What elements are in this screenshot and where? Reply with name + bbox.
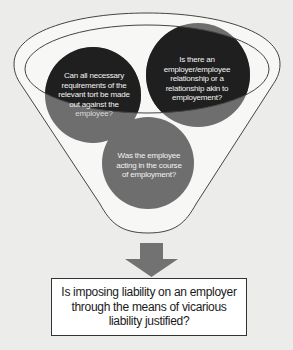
tort-question-line: relevant tort be made [55,90,133,100]
relationship-question-line: employement? [155,93,239,103]
course-question: Was the employee acting in the course of… [110,151,188,180]
relationship-question-line: relationship akin to [155,84,239,94]
relationship-question-line: employer/employee [155,65,239,75]
result-question: Is imposing liability on an employer thr… [52,285,246,329]
result-box: Is imposing liability on an employer thr… [51,278,247,336]
relationship-question-line: relationship or a [155,74,239,84]
tort-question-line: employee? [55,109,133,119]
tort-question-line: out against the [55,100,133,110]
course-question-line: acting in the course [110,161,188,171]
tort-question: Can all necessary requirements of the re… [55,71,133,119]
relationship-question: Is there an employer/employee relationsh… [155,55,239,103]
relationship-question-line: Is there an [155,55,239,65]
tort-question-line: requirements of the [55,81,133,91]
tort-question-line: Can all necessary [55,71,133,81]
down-arrow-icon [125,243,178,277]
course-question-line: of employment? [110,170,188,180]
course-question-line: Was the employee [110,151,188,161]
